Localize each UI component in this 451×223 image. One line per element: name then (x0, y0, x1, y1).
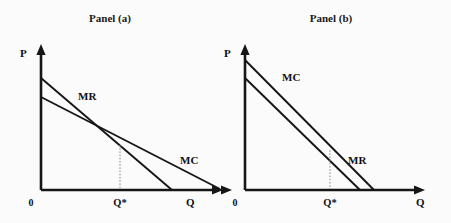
panel-a-equilibrium-tick-label: Q* (113, 197, 126, 208)
panel-a-mc-label: MC (180, 154, 198, 166)
panel-b: Panel (b) P Q 0 MC MR Q* (221, 12, 425, 208)
panel-b-origin-label: 0 (233, 197, 238, 208)
panel-b-title: Panel (b) (310, 12, 353, 25)
panel-b-x-axis-label: Q (416, 196, 425, 208)
panel-a-y-axis-label: P (20, 47, 27, 59)
panel-a-mc-curve (41, 97, 220, 189)
panel-a-title: Panel (a) (89, 12, 131, 25)
panel-b-mc-label: MC (282, 71, 300, 83)
panel-a-y-axis-arrow-icon (36, 44, 45, 55)
panel-b-equilibrium-tick-label: Q* (323, 197, 336, 208)
panel-b-mr-curve (245, 78, 360, 190)
panel-b-left-arrow-icon (221, 185, 232, 194)
panel-a-x-axis-label: Q (186, 196, 195, 208)
panel-a: Panel (a) P Q 0 MR MC Q* (20, 12, 223, 208)
panel-b-x-axis-arrow-icon (414, 185, 425, 194)
panel-a-origin-label: 0 (29, 197, 34, 208)
panel-b-mr-label: MR (348, 154, 367, 166)
economics-figure: Panel (a) P Q 0 MR MC Q* Panel (b) (0, 0, 451, 223)
panel-a-mr-label: MR (78, 90, 97, 102)
panel-b-y-axis-arrow-icon (240, 44, 249, 55)
panel-b-y-axis-label: P (224, 47, 231, 59)
panel-a-mr-curve (41, 78, 172, 190)
panel-b-mc-curve (245, 60, 374, 190)
